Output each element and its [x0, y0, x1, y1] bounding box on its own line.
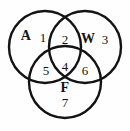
set-label-w: W [81, 32, 95, 46]
venn-diagram: A W F 1 2 3 4 5 6 7 [0, 0, 130, 131]
region-label-f-only: 7 [62, 96, 69, 109]
region-label-a-w-f: 4 [62, 60, 69, 73]
region-label-w-f: 6 [82, 64, 89, 77]
set-label-f: F [61, 81, 70, 95]
region-label-a-only: 1 [40, 31, 47, 44]
region-label-a-f: 5 [43, 64, 50, 77]
region-label-a-w: 2 [62, 33, 69, 46]
set-label-a: A [21, 29, 31, 43]
region-label-w-only: 3 [102, 33, 109, 46]
